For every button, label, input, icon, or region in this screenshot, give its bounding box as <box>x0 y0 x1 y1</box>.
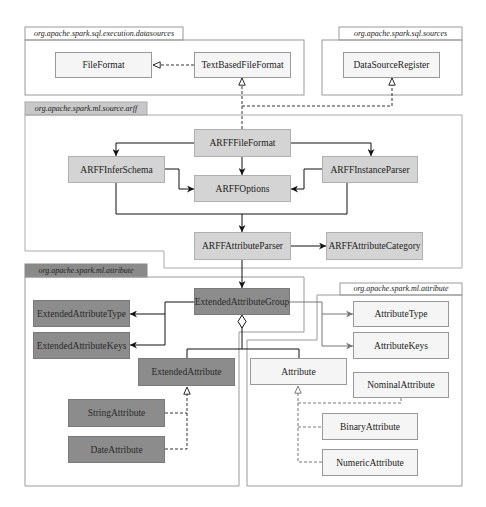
package-label-ml-attribute: org.apache.spark.ml.attribute <box>340 282 462 295</box>
class-arff-attribute-parser: ARFFAttributeParser <box>194 232 291 260</box>
class-extended-attribute-keys: ExtendedAttributeKeys <box>33 332 130 359</box>
class-nominal-attribute: NominalAttribute <box>353 372 449 398</box>
class-extended-attribute: ExtendedAttribute <box>138 358 235 386</box>
class-data-source-register: DataSourceRegister <box>343 52 440 78</box>
class-file-format: FileFormat <box>55 52 152 78</box>
class-binary-attribute: BinaryAttribute <box>322 413 418 440</box>
package-label-sql-sources: org.apache.spark.sql.sources <box>339 27 462 40</box>
uml-class-diagram: org.apache.spark.sql.execution.datasourc… <box>0 0 486 507</box>
class-arff-instance-parser: ARFFInstanceParser <box>322 156 418 183</box>
package-label-sql-execution-datasources: org.apache.spark.sql.execution.datasourc… <box>25 27 183 40</box>
class-extended-attribute-type: ExtendedAttributeType <box>33 300 130 327</box>
class-arff-infer-schema: ARFFInferSchema <box>68 156 165 183</box>
class-arff-attribute-category: ARFFAttributeCategory <box>326 232 423 260</box>
class-string-attribute: StringAttribute <box>68 399 165 427</box>
class-extended-attribute-group: ExtendedAttributeGroup <box>194 288 290 315</box>
class-date-attribute: DateAttribute <box>68 436 165 463</box>
class-arff-file-format: ARFFFileFormat <box>194 129 291 157</box>
package-label-ml-attribute-extended: org.apache.spark.ml.attribute <box>25 264 147 277</box>
class-arff-options: ARFFOptions <box>194 175 291 202</box>
class-text-based-file-format: TextBasedFileFormat <box>194 52 291 78</box>
class-numeric-attribute: NumericAttribute <box>322 449 418 476</box>
class-attribute-keys: AttributeKeys <box>353 332 449 359</box>
package-label-ml-source-arff: org.apache.spark.ml.source.arff <box>25 102 147 115</box>
class-attribute: Attribute <box>250 358 347 385</box>
aggregation-diamond-icon <box>238 315 246 328</box>
class-attribute-type: AttributeType <box>353 301 449 327</box>
